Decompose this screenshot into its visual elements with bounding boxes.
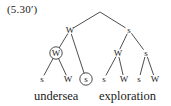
tree-branch bbox=[59, 59, 67, 75]
tree-node-right-mid-w: W bbox=[114, 48, 123, 58]
tree-branch bbox=[132, 34, 144, 50]
tree-branch bbox=[74, 12, 100, 27]
tree-branch bbox=[147, 57, 153, 75]
tree-node-labels-group: WsWWssWssWsW bbox=[40, 25, 160, 84]
tree-node-right-top: s bbox=[127, 25, 131, 35]
tree-edges-group bbox=[44, 12, 153, 75]
leaf-node-leaf-6: s bbox=[137, 74, 141, 84]
tree-branch bbox=[120, 34, 127, 49]
tree-branch bbox=[106, 57, 116, 75]
tree-node-right-mid-s: s bbox=[144, 48, 148, 58]
tree-node-left-mid-w: W bbox=[52, 48, 61, 58]
word-label-undersea: undersea bbox=[34, 89, 78, 104]
leaf-node-leaf-1: s bbox=[40, 74, 44, 84]
leaf-node-leaf-3: s bbox=[84, 74, 88, 84]
tree-branch bbox=[100, 12, 125, 27]
tree-branch bbox=[59, 34, 67, 48]
leaf-node-leaf-4: s bbox=[102, 74, 106, 84]
tree-branch bbox=[71, 34, 84, 73]
leaf-node-leaf-2: W bbox=[64, 74, 73, 84]
metrical-tree-figure: (5.30′) WsWWssWssWsW undersea exploratio… bbox=[0, 0, 171, 106]
tree-branch bbox=[44, 58, 53, 75]
leaf-node-leaf-5: W bbox=[120, 74, 129, 84]
leaf-node-leaf-7: W bbox=[151, 74, 160, 84]
tree-branch bbox=[140, 57, 145, 74]
tree-branch bbox=[119, 57, 123, 74]
word-label-exploration: exploration bbox=[99, 89, 156, 104]
tree-node-left-top: W bbox=[66, 25, 75, 35]
